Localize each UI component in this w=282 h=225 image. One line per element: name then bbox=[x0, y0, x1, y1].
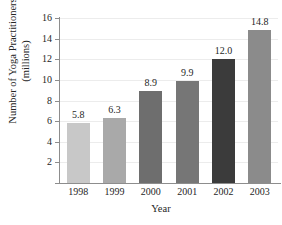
gridline bbox=[60, 39, 278, 40]
y-axis-tick-label: 8 bbox=[30, 96, 52, 106]
y-axis-tick-label: 14 bbox=[30, 34, 52, 44]
gridline bbox=[60, 59, 278, 60]
bar-value-label: 12.0 bbox=[204, 46, 244, 56]
chart-page: Number of Yoga Practitioners (millions) … bbox=[0, 0, 282, 225]
y-axis-tick-label: 16 bbox=[30, 13, 52, 23]
y-axis-title-line-1: Number of Yoga Practitioners bbox=[7, 0, 20, 151]
y-axis-tick-label: 12 bbox=[30, 54, 52, 64]
x-axis-tick-label: 1999 bbox=[95, 187, 135, 197]
x-axis-tick-label: 2002 bbox=[204, 187, 244, 197]
gridline bbox=[60, 121, 278, 122]
bar-value-label: 5.8 bbox=[58, 110, 98, 120]
bar bbox=[139, 91, 162, 183]
x-axis-tick-label: 2003 bbox=[240, 187, 280, 197]
y-axis-tick-label: 10 bbox=[30, 75, 52, 85]
x-axis-title: Year bbox=[0, 203, 282, 214]
bar bbox=[67, 123, 90, 183]
bar-value-label: 6.3 bbox=[95, 105, 135, 115]
cropped-title bbox=[0, 0, 282, 2]
gridline bbox=[60, 162, 278, 163]
x-axis-tick-label: 2001 bbox=[167, 187, 207, 197]
bar bbox=[176, 81, 199, 183]
x-axis-tick-label: 2000 bbox=[131, 187, 171, 197]
plot-area bbox=[60, 18, 278, 183]
gridline bbox=[60, 101, 278, 102]
y-axis-tick-label: 2 bbox=[30, 157, 52, 167]
gridline bbox=[60, 142, 278, 143]
x-axis-line bbox=[55, 183, 281, 184]
y-axis-tick-label: 6 bbox=[30, 116, 52, 126]
x-axis-tick-label: 1998 bbox=[58, 187, 98, 197]
bar-value-label: 14.8 bbox=[240, 17, 280, 27]
bar-value-label: 8.9 bbox=[131, 78, 171, 88]
bar bbox=[248, 30, 271, 183]
bar-value-label: 9.9 bbox=[167, 68, 207, 78]
bar bbox=[212, 59, 235, 183]
y-axis-tick-label: 4 bbox=[30, 137, 52, 147]
bar bbox=[103, 118, 126, 183]
